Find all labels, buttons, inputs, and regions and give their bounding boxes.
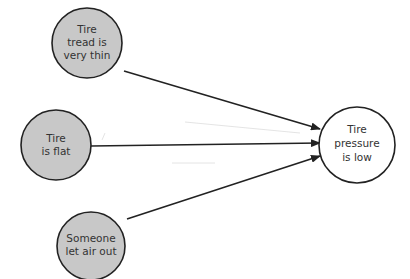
cause-tread-line-2: tread is xyxy=(67,36,107,48)
effect-line-2: pressure xyxy=(334,137,379,149)
cause-effect-diagram: Tire tread is very thin Tire is flat Som… xyxy=(0,0,410,279)
effect-line-1: Tire xyxy=(346,123,367,135)
cause-node-tread: Tire tread is very thin xyxy=(52,8,122,78)
scan-artifacts xyxy=(102,122,300,163)
edge-tread-to-pressure xyxy=(124,71,320,129)
cause-tread-line-3: very thin xyxy=(64,49,111,61)
edge-air-to-pressure xyxy=(127,156,320,219)
edge-flat-to-pressure xyxy=(91,143,320,146)
cause-node-flat: Tire is flat xyxy=(21,110,91,180)
effect-node-pressure: Tire pressure is low xyxy=(319,107,395,183)
cause-air-line-1: Someone xyxy=(66,232,115,244)
cause-flat-line-2: is flat xyxy=(42,145,71,157)
effect-line-3: is low xyxy=(342,151,372,163)
cause-node-air: Someone let air out xyxy=(57,212,125,279)
cause-tread-line-1: Tire xyxy=(76,23,97,35)
cause-air-line-2: let air out xyxy=(65,245,116,257)
cause-flat-line-1: Tire xyxy=(45,132,66,144)
